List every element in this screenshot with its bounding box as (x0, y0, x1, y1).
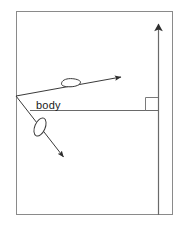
page-background (0, 0, 182, 226)
diagram-canvas: body (0, 0, 182, 226)
vector-diagram: body (0, 0, 182, 226)
upper-body-blob (62, 79, 81, 87)
body-label: body (36, 99, 61, 111)
